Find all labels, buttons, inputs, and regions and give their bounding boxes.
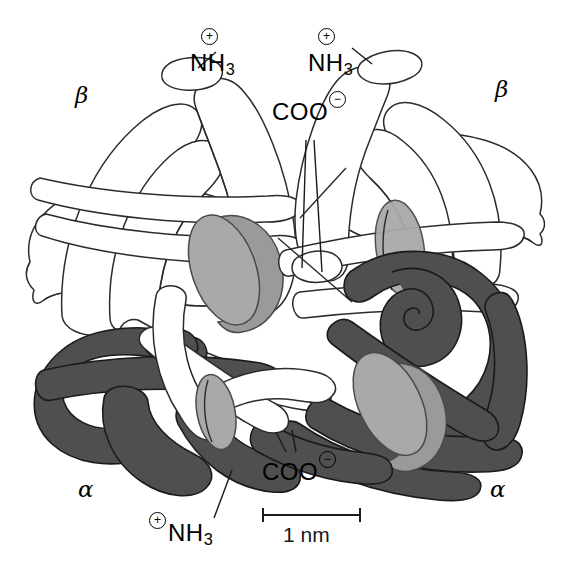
charge-minus-carboxyl-bottom: −	[319, 451, 336, 468]
hemoglobin-figure: .rb-a { fill: #4f4f4f; stroke: #1a1a1a; …	[0, 0, 565, 574]
charge-plus-amino-bottom: +	[149, 512, 166, 529]
charge-plus-amino-top-left: +	[201, 28, 218, 45]
charge-minus-carboxyl-top: −	[329, 91, 346, 108]
terminus-label-amino-top-right: NH3	[308, 51, 353, 77]
amino-bottom-text: NH	[168, 519, 204, 546]
scale-bar-label: 1 nm	[283, 523, 330, 547]
scale-bar	[263, 508, 360, 522]
subunit-label-beta-left: β	[75, 84, 88, 107]
subunit-label-alpha-left: α	[78, 478, 94, 501]
amino-top-left-text: NH	[190, 49, 226, 76]
terminus-label-amino-top-left: NH3	[190, 51, 235, 77]
amino-top-right-text: NH	[308, 49, 344, 76]
terminus-label-carboxyl-top: COO	[272, 100, 328, 124]
charge-plus-amino-top-right: +	[318, 28, 335, 45]
terminus-label-amino-bottom: NH3	[168, 521, 213, 547]
subunit-label-beta-right: β	[495, 78, 508, 101]
subunit-label-alpha-right: α	[490, 478, 506, 501]
amino-top-left-sub: 3	[226, 60, 236, 78]
amino-bottom-sub: 3	[204, 530, 214, 548]
terminus-label-carboxyl-bottom: COO	[262, 460, 318, 484]
leader-amino-bottom	[214, 470, 232, 518]
amino-top-right-sub: 3	[344, 60, 354, 78]
